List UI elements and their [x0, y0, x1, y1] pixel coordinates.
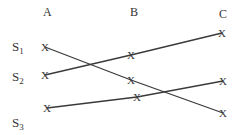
row-label-s2: S2: [12, 70, 24, 88]
x-marker: X: [133, 91, 141, 103]
x-marker: X: [41, 69, 49, 81]
x-marker: X: [218, 27, 226, 39]
x-marker: X: [219, 107, 227, 119]
x-marker: X: [127, 74, 135, 86]
diagram-lines: XXXXXXXXX: [0, 0, 240, 135]
row-label-s1: S1: [12, 40, 24, 58]
diagram: XXXXXXXXX ABCS1S2S3: [0, 0, 240, 135]
x-marker: X: [219, 75, 227, 87]
x-marker: X: [41, 41, 49, 53]
column-label-a: A: [43, 6, 52, 18]
x-marker: X: [43, 102, 51, 114]
row-label-s3: S3: [12, 116, 24, 134]
column-label-c: C: [219, 8, 227, 20]
x-marker: X: [127, 49, 135, 61]
column-label-b: B: [130, 6, 138, 18]
